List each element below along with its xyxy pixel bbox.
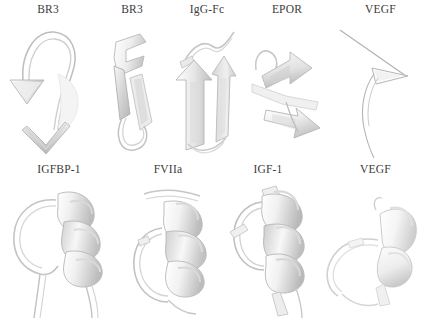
panel-label-br3-b: BR3 (121, 2, 143, 18)
panel-fviia: FVIIa (118, 162, 218, 320)
figure-row-bottom: IGFBP-1 (0, 162, 433, 320)
panel-igfbp-1: IGFBP-1 (0, 162, 118, 320)
protein-structure-figure: BR3 (0, 0, 433, 322)
panel-vegf-bottom: VEGF (318, 162, 433, 320)
panel-label-fviia: FVIIa (154, 162, 182, 178)
structure-igg-fc (168, 18, 246, 160)
structure-br3-b (96, 18, 168, 160)
structure-epor (246, 18, 328, 160)
structure-vegf-bottom (318, 178, 433, 320)
panel-vegf-top: VEGF (328, 2, 433, 160)
panel-igg-fc: IgG-Fc (168, 2, 246, 160)
panel-label-vegf-bottom: VEGF (360, 162, 391, 178)
panel-label-epor: EPOR (272, 2, 302, 18)
panel-br3-a: BR3 (0, 2, 96, 160)
structure-fviia (118, 178, 218, 320)
structure-igf-1 (218, 178, 318, 320)
panel-label-br3-a: BR3 (37, 2, 59, 18)
figure-row-top: BR3 (0, 2, 433, 160)
panel-br3-b: BR3 (96, 2, 168, 160)
panel-igf-1: IGF-1 (218, 162, 318, 320)
structure-br3-a (0, 18, 96, 160)
panel-label-igfbp-1: IGFBP-1 (37, 162, 81, 178)
panel-label-igg-fc: IgG-Fc (190, 2, 224, 18)
panel-label-igf-1: IGF-1 (253, 162, 282, 178)
structure-igfbp-1 (0, 178, 118, 320)
structure-vegf-top (328, 18, 433, 160)
panel-label-vegf-top: VEGF (365, 2, 396, 18)
panel-epor: EPOR (246, 2, 328, 160)
